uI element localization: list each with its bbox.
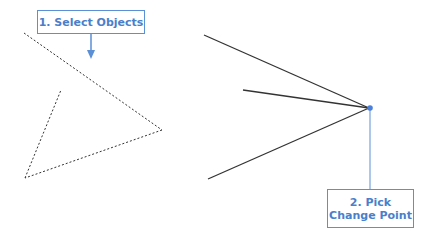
dashed-line-bottom <box>25 130 162 178</box>
dashed-line-left <box>25 90 61 178</box>
solid-line-bottom <box>208 108 369 179</box>
callout-pick-change-point: 2. Pick Change Point <box>327 189 414 228</box>
callout-pick-line2: Change Point <box>329 209 412 222</box>
solid-line-top <box>204 35 369 108</box>
selected-objects <box>24 33 162 178</box>
arrow-down-icon <box>87 34 95 59</box>
callout-select-objects: 1. Select Objects <box>37 10 145 34</box>
result-lines <box>204 35 369 179</box>
callout-select-objects-label: 1. Select Objects <box>39 16 144 29</box>
dashed-line-top <box>24 33 162 130</box>
change-point-marker[interactable] <box>367 105 373 111</box>
callout-pick-line1: 2. Pick <box>350 196 391 209</box>
